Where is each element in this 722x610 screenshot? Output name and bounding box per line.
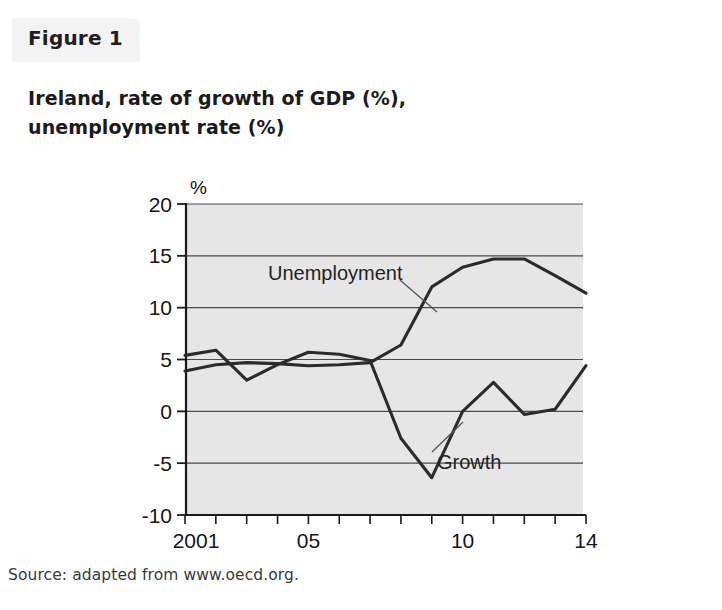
x-tick-label-2001: 2001 bbox=[173, 529, 220, 552]
figure-card: Figure 1 Ireland, rate of growth of GDP … bbox=[0, 8, 722, 602]
y-tick-label-20: 20 bbox=[149, 193, 172, 216]
y-tick-labels-group: 20151050-5-10 bbox=[142, 193, 172, 527]
x-tick-labels-group: 2001051014 bbox=[173, 529, 598, 552]
unemployment-series-label: Unemployment bbox=[268, 262, 403, 284]
growth-series-label: Growth bbox=[437, 451, 501, 473]
y-tick-label-5: 5 bbox=[160, 348, 172, 371]
source-note: Source: adapted from www.oecd.org. bbox=[8, 566, 299, 584]
y-tick-label--5: -5 bbox=[153, 452, 172, 475]
y-tick-label-10: 10 bbox=[149, 296, 172, 319]
x-tick-label-2014: 14 bbox=[574, 529, 598, 552]
chart-svg: 20151050-5-10 2001051014 % Unemployment … bbox=[0, 8, 722, 610]
x-tick-label-2005: 05 bbox=[297, 529, 320, 552]
x-tick-marks-group bbox=[185, 515, 586, 524]
y-tick-label--10: -10 bbox=[142, 504, 172, 527]
y-tick-marks-group bbox=[177, 204, 186, 515]
y-axis-unit-label: % bbox=[190, 177, 207, 198]
y-tick-label-15: 15 bbox=[149, 244, 172, 267]
y-tick-label-0: 0 bbox=[160, 400, 172, 423]
x-tick-label-2010: 10 bbox=[451, 529, 474, 552]
line-chart: 20151050-5-10 2001051014 % Unemployment … bbox=[0, 8, 722, 610]
